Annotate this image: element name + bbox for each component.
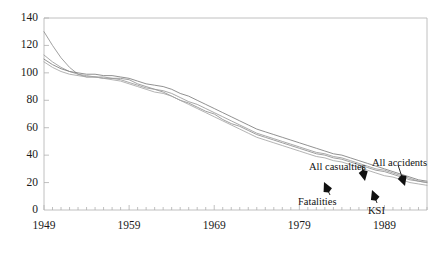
y-axis-tick-label: 40: [4, 149, 38, 161]
plot-frame: [44, 18, 427, 210]
x-axis-tick-label: 1959: [99, 220, 159, 232]
x-axis-tick-label: 1989: [354, 220, 414, 232]
y-axis-tick-label: 140: [4, 12, 38, 24]
annotation-arrow: [324, 182, 332, 195]
annotation-label-all-casualties: All casualties: [309, 162, 366, 173]
y-axis-tick-label: 0: [4, 204, 38, 216]
y-axis-tick-label: 20: [4, 177, 38, 189]
x-axis-tick-label: 1949: [14, 220, 74, 232]
annotation-label-all-accidents: All accidents: [372, 158, 427, 169]
annotation-label-ksi: KSI: [368, 206, 385, 217]
y-axis-tick-label: 100: [4, 67, 38, 79]
y-axis-tick-label: 80: [4, 94, 38, 106]
annotation-label-fatalities: Fatalities: [298, 197, 337, 208]
annotation-arrow: [371, 190, 380, 203]
line-chart: 020406080100120140 19491959196919791989 …: [0, 0, 438, 255]
x-axis-tick-label: 1979: [269, 220, 329, 232]
y-axis-tick-label: 60: [4, 122, 38, 134]
series-line-all-casualties: [44, 59, 427, 181]
y-axis-tick-label: 120: [4, 39, 38, 51]
x-axis-tick-label: 1969: [184, 220, 244, 232]
series-line-fatalities: [44, 32, 427, 183]
chart-canvas: [0, 0, 438, 255]
